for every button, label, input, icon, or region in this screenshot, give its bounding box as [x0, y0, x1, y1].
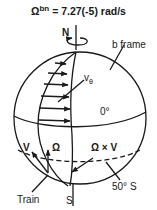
earth-sphere — [14, 52, 146, 184]
earth-rotation-diagram — [0, 0, 157, 210]
v-theta-subscript: θ — [89, 78, 93, 85]
train-label: Train — [17, 195, 39, 205]
south-label: S — [66, 196, 73, 206]
omega-vector-label: Ω — [52, 143, 60, 153]
meridian-right — [70, 52, 76, 186]
v-theta-label: vθ — [84, 73, 93, 85]
b-frame-label: b frame — [112, 40, 146, 50]
latitude-50s-line — [18, 150, 140, 162]
equator-line — [14, 112, 146, 127]
train-leader — [32, 175, 48, 192]
velocity-profile-arrows — [39, 63, 70, 121]
meridian-left — [38, 52, 76, 186]
v-vector-label: V — [23, 143, 30, 153]
equator-label: 0° — [100, 107, 110, 117]
rotation-arrow-icon — [67, 38, 87, 45]
north-label: N — [62, 28, 69, 38]
latitude-label: 50° S — [112, 182, 137, 192]
coriolis-label: Ω × V — [91, 143, 117, 153]
coriolis-vector-arrow — [72, 158, 93, 172]
